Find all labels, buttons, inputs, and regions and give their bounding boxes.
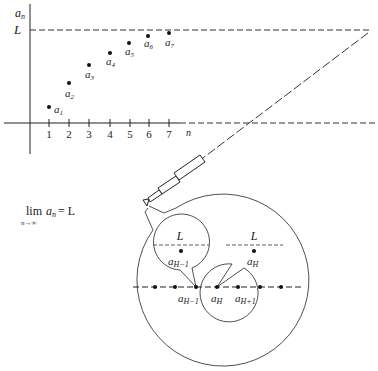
x-axis-label: n	[186, 127, 191, 138]
callout-lines	[149, 206, 176, 213]
tick-label: 6	[146, 128, 152, 140]
sequence-point	[67, 81, 71, 85]
point-label: a7	[165, 36, 175, 50]
y-axis-label: an	[15, 6, 25, 21]
point-label: a2	[65, 87, 75, 101]
magnified-point	[279, 285, 283, 289]
tick-label: 4	[107, 128, 113, 140]
magnified-point	[215, 285, 219, 289]
tick-label: 3	[86, 128, 92, 140]
tick-label: 7	[166, 128, 172, 140]
tick-label: 5	[127, 128, 133, 140]
svg-text:an= L: an= L	[46, 204, 75, 219]
sequence-point	[87, 63, 91, 67]
magnified-point	[153, 285, 157, 289]
point-label: a3	[85, 68, 95, 82]
sequence-point	[167, 31, 171, 35]
point-label: a6	[144, 37, 154, 51]
callout-lines	[145, 208, 153, 230]
magnification-circle	[137, 194, 309, 366]
point-label: a4	[106, 55, 116, 69]
bubble-right-L: L	[250, 229, 258, 243]
magnified-point	[258, 285, 262, 289]
limit-label-L: L	[13, 22, 21, 37]
svg-text:n→∞: n→∞	[21, 219, 37, 227]
magnified-point	[194, 285, 198, 289]
svg-text:lim: lim	[26, 204, 43, 218]
zoom-bubble-right	[200, 264, 258, 322]
tick-label: 1	[46, 128, 52, 140]
bubble-right-point	[252, 249, 256, 253]
magnified-point	[236, 285, 240, 289]
bubble-right-point-label: aH	[247, 255, 260, 269]
sequence-limit-diagram: 1 2 3 4 5 6 7 an n L a1 a2 a3 a4 a5 a6 a…	[0, 0, 378, 371]
sight-line	[203, 33, 368, 158]
limit-formula: lim n→∞ an= L	[21, 204, 75, 227]
point-label: a5	[125, 45, 135, 59]
bubble-left-point	[179, 249, 183, 253]
sequence-point	[47, 105, 51, 109]
magnified-point	[173, 285, 177, 289]
magnified-label: aH−1	[178, 292, 199, 306]
bubble-left-L: L	[176, 229, 184, 243]
tick-label: 2	[66, 128, 72, 140]
point-label: a1	[54, 103, 63, 117]
